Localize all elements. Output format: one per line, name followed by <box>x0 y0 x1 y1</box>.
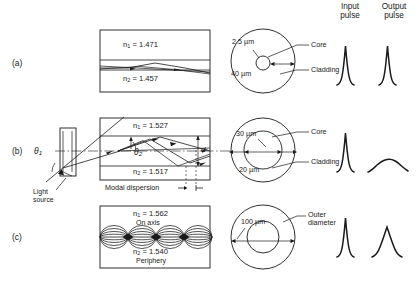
n2-note-c: Periphery <box>136 257 166 264</box>
n2-label-c: n2 = 1.540 <box>133 248 168 257</box>
optical-fiber-figure: Input pulse Output pulse (a) (b) (c) <box>0 0 418 283</box>
outer-callout-leader-c <box>283 216 297 222</box>
n1-subscript-c: 1 <box>137 212 140 218</box>
n1-note-c: On axis <box>136 219 160 226</box>
outer-diameter-callout-c: Outer diameter <box>308 211 336 227</box>
n2-subscript-c: 2 <box>137 250 140 256</box>
outer-circle-c <box>231 205 295 269</box>
n2-value-c: = 1.540 <box>142 247 168 256</box>
graded-ray-bundle-c <box>100 226 212 249</box>
outer-diameter-dim-c: 100 µm <box>241 218 265 226</box>
n1-label-c: n1 = 1.562 <box>133 210 168 219</box>
output-pulse-c <box>372 227 402 257</box>
input-pulse-c <box>337 218 354 257</box>
outer-callout-line2-c: diameter <box>308 219 336 227</box>
row-c-graphics <box>0 0 418 283</box>
outer-dim-leader-c <box>237 228 245 239</box>
n1-value-c: = 1.562 <box>142 209 168 218</box>
